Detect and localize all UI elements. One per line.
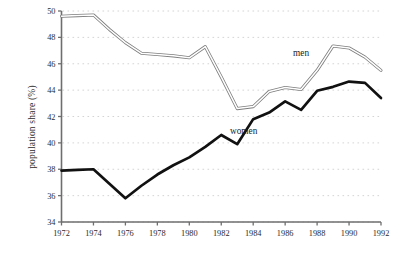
chart-container: population share (%) 343638404244464850 …: [0, 0, 404, 253]
gridlines: [63, 11, 382, 222]
x-tick-labels: 1972197419761978198019821984198619881990…: [53, 222, 389, 238]
series-women: [62, 82, 382, 199]
svg-text:1976: 1976: [117, 229, 134, 238]
svg-text:34: 34: [47, 218, 56, 227]
svg-text:1978: 1978: [149, 229, 166, 238]
svg-text:40: 40: [47, 139, 55, 148]
svg-text:46: 46: [47, 60, 55, 69]
svg-text:1982: 1982: [213, 229, 230, 238]
svg-text:1972: 1972: [53, 229, 70, 238]
men-label: men: [293, 48, 309, 58]
svg-text:1992: 1992: [373, 229, 390, 238]
svg-text:1984: 1984: [245, 229, 262, 238]
svg-text:50: 50: [47, 7, 55, 16]
series-men: [62, 15, 382, 109]
line-chart: 343638404244464850 197219741976197819801…: [0, 0, 404, 253]
svg-text:36: 36: [47, 192, 55, 201]
svg-text:42: 42: [47, 113, 55, 122]
y-tick-labels: 343638404244464850: [47, 7, 61, 227]
svg-text:38: 38: [47, 165, 55, 174]
svg-text:1986: 1986: [277, 229, 294, 238]
svg-text:1974: 1974: [85, 229, 102, 238]
svg-text:48: 48: [47, 33, 55, 42]
svg-text:44: 44: [47, 86, 56, 95]
svg-text:1990: 1990: [341, 229, 358, 238]
women-label: women: [230, 126, 258, 136]
svg-text:1980: 1980: [181, 229, 198, 238]
svg-text:1988: 1988: [309, 229, 326, 238]
